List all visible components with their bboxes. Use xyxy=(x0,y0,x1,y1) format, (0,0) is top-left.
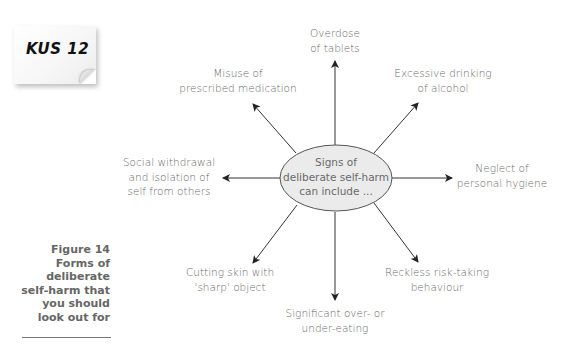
node-line: of tablets xyxy=(310,41,360,56)
arrow-misuse xyxy=(253,104,296,153)
center-line: can include ... xyxy=(283,184,389,199)
node-line: Misuse of xyxy=(179,66,296,81)
node-line: Social withdrawal xyxy=(123,155,215,170)
node-misuse: Misuse of prescribed medication xyxy=(179,66,296,95)
node-line: Reckless risk-taking xyxy=(385,265,489,280)
arrow-cutting xyxy=(253,205,297,263)
node-social: Social withdrawal and isolation of self … xyxy=(123,155,215,199)
node-line: self from others xyxy=(123,184,215,199)
node-line: 'sharp' object xyxy=(186,280,274,295)
arrow-reckless xyxy=(374,203,418,262)
node-reckless: Reckless risk-taking behaviour xyxy=(385,265,489,294)
center-line: deliberate self-harm xyxy=(283,170,389,185)
center-label: Signs of deliberate self-harm can includ… xyxy=(283,155,389,199)
node-line: Overdose xyxy=(310,26,360,41)
node-cutting: Cutting skin with 'sharp' object xyxy=(186,265,274,294)
node-line: Excessive drinking xyxy=(394,66,491,81)
node-overdose: Overdose of tablets xyxy=(310,26,360,55)
center-line: Signs of xyxy=(283,155,389,170)
node-line: prescribed medication xyxy=(179,81,296,96)
node-hygiene: Neglect of personal hygiene xyxy=(457,161,547,190)
node-line: behaviour xyxy=(385,280,489,295)
node-line: Neglect of xyxy=(457,161,547,176)
node-line: Significant over- or xyxy=(286,306,385,321)
node-line: under-eating xyxy=(286,321,385,336)
node-line: Cutting skin with xyxy=(186,265,274,280)
node-line: and isolation of xyxy=(123,170,215,185)
node-eating: Significant over- or under-eating xyxy=(286,306,385,335)
node-line: personal hygiene xyxy=(457,176,547,191)
arrow-alcohol xyxy=(374,103,418,153)
node-alcohol: Excessive drinking of alcohol xyxy=(394,66,491,95)
node-line: of alcohol xyxy=(394,81,491,96)
